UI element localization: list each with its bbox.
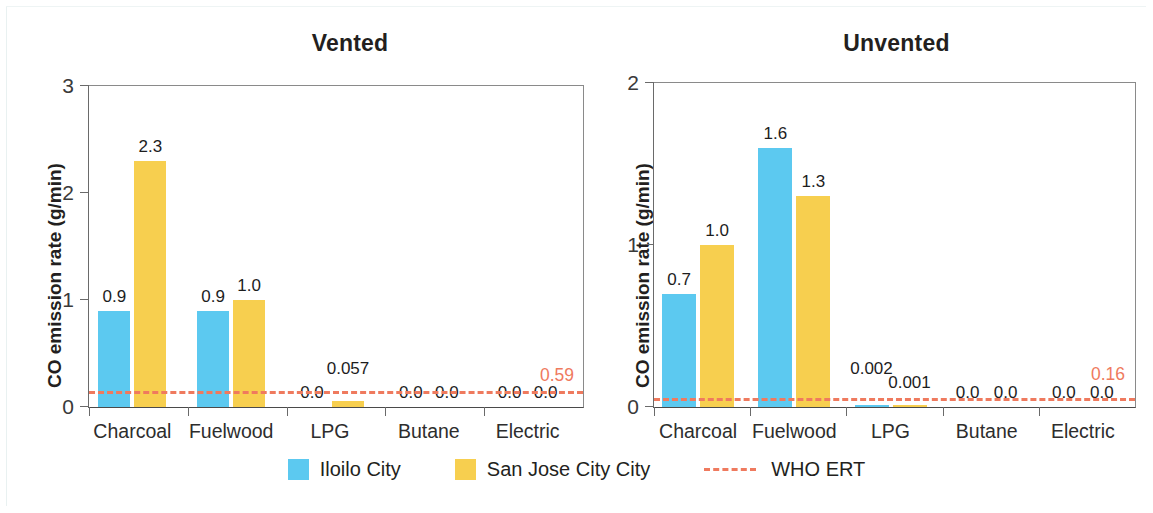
- chart-title-unvented: Unvented: [600, 30, 1153, 57]
- y-axis-tick: 0: [645, 406, 654, 407]
- y-axis-tick-label: 1: [627, 233, 639, 257]
- legend-item[interactable]: Iloilo City: [288, 458, 401, 481]
- x-axis-category-label: Electric: [1051, 420, 1115, 443]
- y-axis-label-unvented: CO emission rate (g/min): [632, 163, 654, 388]
- bar: [893, 405, 927, 408]
- legend-item-label: Iloilo City: [320, 458, 401, 481]
- legend-item[interactable]: San Jose City City: [455, 458, 650, 481]
- x-axis-category-label: Butane: [956, 420, 1018, 443]
- bar-value-label: 0.9: [201, 287, 225, 307]
- x-axis-tick: [750, 407, 751, 416]
- bar-value-label: 2.3: [139, 137, 163, 157]
- x-axis-tick: [287, 407, 288, 416]
- who-ert-reference-line: [654, 398, 1135, 401]
- bar: [855, 405, 889, 408]
- x-axis-tick: [385, 407, 386, 416]
- legend-item-label: WHO ERT: [771, 458, 865, 481]
- y-axis-tick-label: 2: [627, 71, 639, 95]
- legend-color-swatch: [455, 459, 476, 480]
- x-axis-category-label: Butane: [398, 420, 460, 443]
- bar: [700, 245, 734, 407]
- x-axis-category-label: Charcoal: [659, 420, 737, 443]
- x-axis-tick: [846, 407, 847, 416]
- y-axis-tick: 2: [80, 192, 89, 193]
- bar-value-label: 0.9: [103, 287, 127, 307]
- chart-panel-unvented: Unvented CO emission rate (g/min) 012Cha…: [600, 0, 1153, 450]
- y-axis-tick-label: 3: [62, 74, 74, 98]
- x-axis-category-label: Charcoal: [93, 420, 171, 443]
- x-axis-category-label: Fuelwood: [189, 420, 274, 443]
- x-axis-tick: [654, 407, 655, 416]
- bar-value-label: 0.002: [850, 359, 893, 379]
- legend-dashed-line-icon: [704, 468, 756, 471]
- plot-area-vented: 0123Charcoal0.92.3Fuelwood0.91.0LPG0.00.…: [88, 85, 584, 408]
- bar: [134, 161, 166, 407]
- x-axis-tick: [484, 407, 485, 416]
- y-axis-tick-label: 2: [62, 181, 74, 205]
- chart-panel-vented: Vented CO emission rate (g/min) 0123Char…: [0, 0, 600, 450]
- who-ert-value-label: 0.16: [1091, 364, 1125, 385]
- x-axis-tick: [943, 407, 944, 416]
- plot-area-unvented: 012Charcoal0.71.0Fuelwood1.61.3LPG0.0020…: [653, 82, 1136, 408]
- y-axis-tick: 2: [645, 82, 654, 83]
- bar-value-label: 1.3: [801, 172, 825, 192]
- x-axis-tick: [89, 407, 90, 416]
- who-ert-value-label: 0.59: [540, 365, 574, 386]
- bar: [758, 148, 792, 407]
- bar: [796, 196, 830, 407]
- bar-value-label: 0.7: [667, 270, 691, 290]
- x-axis-category-label: Electric: [496, 420, 560, 443]
- bar-value-label: 1.0: [705, 221, 729, 241]
- y-axis-tick: 1: [80, 299, 89, 300]
- y-axis-tick: 3: [80, 85, 89, 86]
- who-ert-reference-line: [89, 391, 583, 394]
- y-axis-tick: 0: [80, 406, 89, 407]
- legend-color-swatch: [288, 459, 309, 480]
- bar-value-label: 1.6: [763, 124, 787, 144]
- bar-value-label: 0.057: [327, 359, 370, 379]
- x-axis-category-label: LPG: [310, 420, 349, 443]
- bar: [332, 401, 364, 407]
- legend-item-label: San Jose City City: [487, 458, 650, 481]
- co-emission-rate-figure: Vented CO emission rate (g/min) 0123Char…: [0, 0, 1153, 513]
- x-axis-tick: [1039, 407, 1040, 416]
- chart-title-vented: Vented: [0, 30, 650, 57]
- chart-legend: Iloilo CitySan Jose City CityWHO ERT: [0, 458, 1153, 481]
- y-axis-tick: 1: [645, 244, 654, 245]
- x-axis-tick: [188, 407, 189, 416]
- y-axis-tick-label: 1: [62, 288, 74, 312]
- bar-value-label: 1.0: [237, 276, 261, 296]
- bar: [662, 294, 696, 407]
- legend-item[interactable]: WHO ERT: [704, 458, 865, 481]
- x-axis-category-label: LPG: [871, 420, 910, 443]
- y-axis-tick-label: 0: [627, 395, 639, 419]
- bar-value-label: 0.001: [888, 373, 931, 393]
- x-axis-category-label: Fuelwood: [752, 420, 837, 443]
- y-axis-tick-label: 0: [62, 395, 74, 419]
